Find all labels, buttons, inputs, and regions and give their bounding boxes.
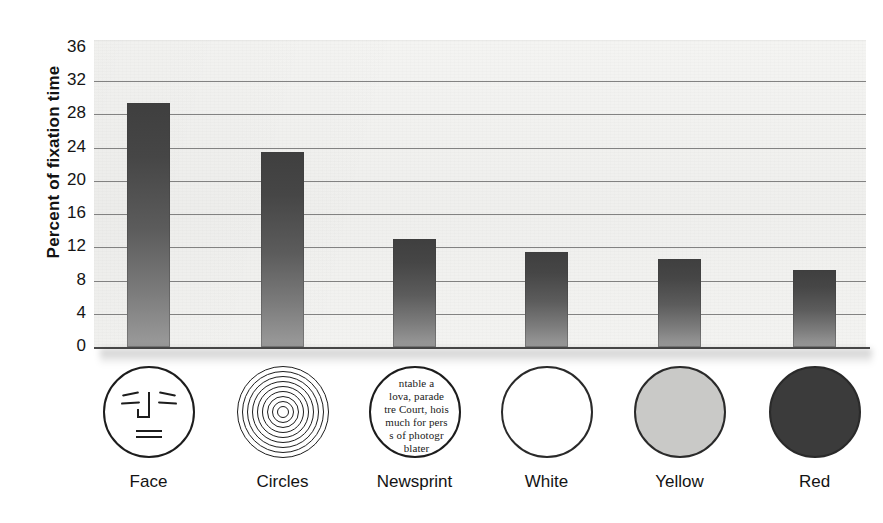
- newsprint-icon: ntable alova, paradetre Court, hoismuch …: [369, 366, 461, 458]
- gridline-28: [94, 114, 866, 115]
- category-newsprint: ntable alova, paradetre Court, hoismuch …: [355, 366, 475, 492]
- category-label-circles: Circles: [223, 472, 343, 492]
- category-label-yellow: Yellow: [620, 472, 740, 492]
- white-disk-icon: [501, 366, 593, 458]
- gridline-32: [94, 81, 866, 82]
- fixation-time-bar-chart: Percent of fixation time 363228242016128…: [0, 0, 883, 523]
- y-tick-28: 28: [42, 103, 86, 123]
- yellow-disk-icon: [634, 366, 726, 458]
- newsprint-line-5: s of photogr: [371, 429, 461, 441]
- newsprint-line-2: lova, parade: [371, 390, 461, 402]
- gridline-16: [94, 214, 866, 215]
- gridline-8: [94, 281, 866, 282]
- category-circles: Circles: [223, 366, 343, 492]
- category-yellow: Yellow: [620, 366, 740, 492]
- red-disk-icon-disk: [769, 366, 861, 458]
- mouth-lower: [136, 436, 162, 438]
- mouth-upper: [136, 430, 162, 432]
- y-tick-8: 8: [42, 270, 86, 290]
- plot-drop-shadow: [100, 349, 872, 365]
- category-label-newsprint: Newsprint: [355, 472, 475, 492]
- newsprint-line-1: ntable a: [371, 377, 461, 389]
- category-label-white: White: [487, 472, 607, 492]
- bar-red: [793, 270, 836, 347]
- nose-base: [137, 416, 149, 418]
- category-axis: FaceCirclesntable alova, paradetre Court…: [0, 366, 883, 523]
- y-tick-12: 12: [42, 236, 86, 256]
- y-tick-0: 0: [42, 336, 86, 356]
- bar-face: [127, 103, 170, 347]
- newsprint-line-3: tre Court, hois: [371, 403, 461, 415]
- red-disk-icon: [769, 366, 861, 458]
- newsprint-line-4: much for pers: [371, 416, 461, 428]
- concentric-circles-icon: [237, 366, 329, 458]
- gridline-24: [94, 148, 866, 149]
- category-face: Face: [89, 366, 209, 492]
- ring-9: [277, 406, 289, 418]
- category-label-face: Face: [89, 472, 209, 492]
- newsprint-line-6: blater: [371, 442, 461, 454]
- bar-white: [525, 252, 568, 347]
- newsprint-disk: ntable alova, paradetre Court, hoismuch …: [369, 366, 461, 458]
- bar-yellow: [658, 259, 701, 347]
- y-tick-36: 36: [42, 37, 86, 57]
- gridline-12: [94, 247, 866, 248]
- bar-newsprint: [393, 239, 436, 347]
- gridline-4: [94, 314, 866, 315]
- yellow-disk-icon-disk: [634, 366, 726, 458]
- category-red: Red: [755, 366, 875, 492]
- bar-circles: [261, 152, 304, 347]
- y-tick-16: 16: [42, 203, 86, 223]
- gridline-20: [94, 181, 866, 182]
- category-white: White: [487, 366, 607, 492]
- white-disk-icon-disk: [501, 366, 593, 458]
- plot-area: [94, 40, 866, 348]
- y-tick-24: 24: [42, 137, 86, 157]
- nose-bridge: [148, 392, 150, 418]
- category-label-red: Red: [755, 472, 875, 492]
- y-tick-20: 20: [42, 170, 86, 190]
- y-tick-4: 4: [42, 303, 86, 323]
- y-tick-32: 32: [42, 70, 86, 90]
- paper-texture: [94, 40, 866, 348]
- face-icon: [103, 366, 195, 458]
